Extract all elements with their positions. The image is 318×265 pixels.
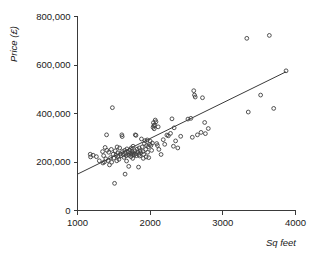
y-tick-label: 800,000	[36, 11, 70, 22]
data-point	[146, 150, 150, 154]
x-tick-label: 2000	[140, 217, 161, 228]
y-axis: 0200,000400,000600,000800,000	[36, 11, 77, 216]
data-point	[245, 36, 249, 40]
y-axis-title: Price (£)	[8, 26, 19, 62]
data-point	[169, 131, 173, 135]
data-point	[109, 147, 113, 151]
data-point	[246, 110, 250, 114]
data-point	[203, 132, 207, 136]
x-tick-label: 4000	[285, 217, 306, 228]
data-point	[199, 131, 203, 135]
data-point	[174, 139, 178, 143]
data-point	[150, 148, 154, 152]
data-point	[206, 127, 210, 131]
data-point	[113, 181, 117, 185]
data-point	[203, 121, 207, 125]
data-point	[190, 135, 194, 139]
data-point	[172, 144, 176, 148]
data-point	[267, 34, 271, 38]
data-point	[192, 89, 196, 93]
data-points	[88, 34, 288, 186]
data-point	[201, 96, 205, 100]
data-point	[105, 133, 109, 137]
x-axis: 1000200030004000	[67, 211, 306, 228]
data-point	[176, 146, 180, 150]
data-point	[123, 172, 127, 176]
data-point	[110, 106, 114, 110]
data-point	[161, 138, 165, 142]
data-point	[127, 164, 131, 168]
data-point	[156, 125, 160, 129]
data-point	[97, 159, 101, 163]
data-point	[170, 117, 174, 121]
data-point	[101, 150, 105, 154]
y-tick-label: 200,000	[36, 156, 70, 167]
data-point	[157, 147, 161, 151]
plot-canvas: 0200,000400,000600,000800,000 1000200030…	[0, 0, 318, 265]
data-point	[159, 153, 163, 157]
data-point	[125, 159, 129, 163]
y-tick-label: 400,000	[36, 108, 70, 119]
data-point	[147, 156, 151, 160]
data-point	[94, 155, 98, 159]
y-tick-label: 600,000	[36, 59, 70, 70]
data-point	[163, 142, 167, 146]
data-point	[196, 133, 200, 137]
x-tick-label: 1000	[67, 217, 88, 228]
y-tick-label: 0	[65, 205, 70, 216]
data-point	[179, 134, 183, 138]
scatter-plot-figure: 0200,000400,000600,000800,000 1000200030…	[0, 0, 318, 265]
x-axis-title: Sq feet	[266, 237, 296, 248]
data-point	[259, 93, 263, 97]
data-point	[272, 107, 276, 111]
x-tick-label: 3000	[212, 217, 233, 228]
data-point	[110, 160, 114, 164]
data-point	[137, 165, 141, 169]
